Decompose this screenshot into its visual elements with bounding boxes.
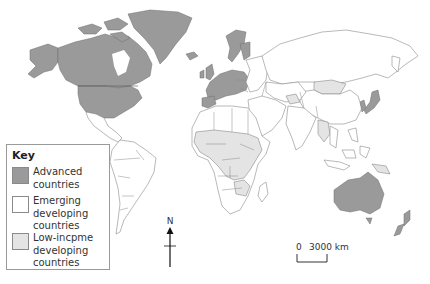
advanced-swatch: [12, 167, 29, 184]
north-label: N: [163, 216, 177, 226]
emerging-swatch: [12, 196, 29, 213]
north-arrow: N: [163, 216, 177, 266]
europe: [200, 30, 268, 108]
key-label-emerging: Emerging developing countries: [33, 195, 105, 233]
key-title: Key: [12, 149, 35, 162]
asia: [248, 30, 418, 174]
scale-start: 0: [296, 242, 302, 252]
map-key: Key Advanced countries Emerging developi…: [6, 144, 110, 270]
key-item-advanced: Advanced countries: [12, 166, 105, 191]
scale-line: [296, 254, 336, 264]
key-label-advanced: Advanced countries: [33, 166, 105, 191]
scale-end: 3000 km: [309, 242, 349, 252]
oceania: [334, 172, 410, 236]
north-america: [28, 10, 198, 118]
low-income-swatch: [12, 233, 29, 250]
key-item-emerging: Emerging developing countries: [12, 195, 105, 233]
north-arrow-icon: [163, 227, 177, 267]
key-item-low-income: Low-incpme developing countries: [12, 232, 105, 270]
scale-bar: 0 3000 km: [293, 242, 373, 268]
key-label-low-income: Low-incpme developing countries: [33, 232, 105, 270]
